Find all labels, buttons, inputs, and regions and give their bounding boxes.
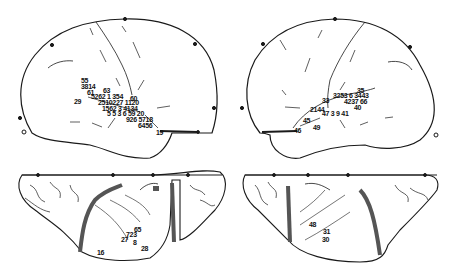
electrode-label: 28	[141, 245, 148, 252]
left-inferior-hemisphere-outline	[19, 171, 226, 261]
right-inferior-hemisphere-outline	[243, 174, 438, 263]
electrode-label: 27	[121, 236, 128, 243]
electrode-label: 29	[74, 98, 81, 105]
electrode-label: 33	[322, 97, 329, 104]
brain-diagram-figure	[0, 0, 459, 274]
electrode-label: 47 3 9 41	[322, 110, 349, 117]
electrode-label: 40	[354, 104, 361, 111]
left-lateral-hemisphere-outline	[18, 17, 217, 158]
electrode-label: 19	[156, 129, 163, 136]
electrode-label: 16	[97, 249, 104, 256]
electrode-label: 31	[323, 228, 330, 235]
electrode-label: 45	[303, 117, 310, 124]
electrode-label: 46	[294, 127, 301, 134]
right-lateral-hemisphere-outline	[240, 17, 438, 158]
electrode-label: 8	[133, 239, 137, 246]
electrode-label: 6456	[138, 122, 152, 129]
electrode-label: 30	[322, 236, 329, 243]
electrode-label: 48	[309, 221, 316, 228]
electrode-label: 49	[313, 124, 320, 131]
